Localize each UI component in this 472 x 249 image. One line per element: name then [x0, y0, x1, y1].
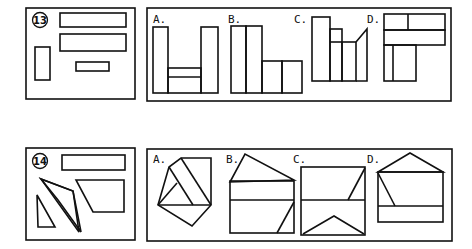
- c-corner-cut: [348, 168, 365, 200]
- d-middle-row: [384, 30, 445, 45]
- c-frame: [301, 167, 365, 235]
- b-corner-cut: [277, 202, 294, 233]
- piece-wide-rect-2: [60, 34, 126, 51]
- option-14-c[interactable]: C.: [293, 153, 365, 235]
- a-diagonal-2: [169, 167, 193, 205]
- problem-13-options-box: A. B. C.: [147, 8, 451, 101]
- option-13-a[interactable]: A.: [153, 13, 218, 93]
- b-block-1: [262, 61, 282, 93]
- b-bar-1: [231, 26, 246, 93]
- option-label: C.: [293, 153, 306, 166]
- c-bar-1: [312, 17, 330, 81]
- c-bar-3: [342, 42, 356, 81]
- piece-triangle: [37, 195, 55, 227]
- option-14-a[interactable]: A.: [153, 153, 211, 226]
- c-slanted-piece: [356, 29, 367, 81]
- c-bar-2: [330, 29, 342, 81]
- b-block-2: [282, 61, 302, 93]
- d-bottom-block: [384, 45, 416, 81]
- b-bar-2: [246, 26, 262, 93]
- a-diagonal-1: [181, 158, 211, 205]
- d-top-row: [384, 14, 445, 30]
- option-label: D.: [367, 153, 380, 166]
- problem-14: 14 A. B.: [26, 148, 452, 241]
- puzzle-sheet: 13 A. B.: [0, 0, 472, 249]
- option-label: C.: [294, 13, 307, 26]
- problem-13: 13 A. B.: [26, 8, 451, 101]
- option-14-d[interactable]: D.: [367, 153, 443, 222]
- a-bottom-block: [168, 68, 201, 93]
- option-13-d[interactable]: D.: [367, 13, 445, 81]
- piece-wide-rect-1: [60, 13, 126, 27]
- option-14-b[interactable]: B.: [226, 153, 294, 233]
- piece-trapezoid: [76, 180, 124, 212]
- problem-number: 13: [33, 15, 47, 26]
- option-label: D.: [367, 13, 380, 26]
- option-label: A.: [153, 13, 166, 26]
- option-label: B.: [226, 153, 239, 166]
- option-label: B.: [228, 13, 241, 26]
- a-left-bar: [153, 27, 168, 93]
- b-body: [230, 181, 294, 233]
- piece-tall-rect: [35, 47, 50, 80]
- option-13-b[interactable]: B.: [228, 13, 302, 93]
- a-right-bar: [201, 27, 218, 93]
- piece-small-rect: [76, 62, 109, 71]
- problem-14-question-box: 14: [26, 148, 135, 240]
- d-roof: [378, 153, 443, 172]
- option-label: A.: [153, 153, 166, 166]
- d-corner-cut: [378, 173, 395, 206]
- problem-14-options-box: A. B. C.: [147, 149, 452, 241]
- b-roof: [230, 154, 294, 182]
- option-13-c[interactable]: C.: [294, 13, 367, 81]
- d-body: [378, 172, 443, 222]
- piece-rectangle: [62, 155, 125, 170]
- c-triangle: [303, 216, 364, 234]
- problem-number: 14: [33, 156, 47, 167]
- problem-13-question-box: 13: [26, 8, 135, 99]
